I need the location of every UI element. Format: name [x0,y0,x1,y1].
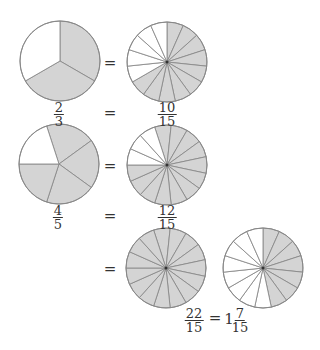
pie-twelve-fifteenths [127,125,207,205]
pie-ten-fifteenths [127,22,207,102]
fraction-12-15: 12 15 [158,205,177,230]
equals-sign: = [209,309,222,327]
equals-sign: = [104,260,117,278]
equals-sign: = [104,207,117,225]
pie-center-dot [166,61,169,64]
fraction-diagram [0,0,320,350]
fraction-10-15: 10 15 [158,102,177,127]
equals-sign: = [104,157,117,175]
mixed-number-whole: 1 [224,310,234,328]
fraction-2-3: 2 3 [54,102,64,127]
equals-sign: = [104,54,117,72]
fraction-4-5: 4 5 [53,205,63,230]
pie-four-fifths [19,124,99,204]
pie-two-thirds [20,21,100,101]
pie-fifteen-fifteenths [126,228,206,308]
fraction-22-15: 22 15 [185,308,204,333]
pie-center-dot [166,164,169,167]
pie-seven-fifteenths [223,228,303,308]
pie-center-dot [165,267,168,270]
pie-center-dot [262,267,265,270]
fraction-7-15: 7 15 [232,308,249,333]
equals-sign: = [104,104,117,122]
